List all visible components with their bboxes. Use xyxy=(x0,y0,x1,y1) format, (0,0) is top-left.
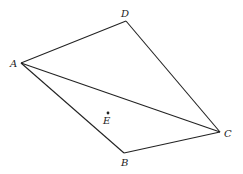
diagram-canvas: ADCBE xyxy=(0,0,243,174)
geometry-diagram: ADCBE xyxy=(0,0,243,174)
label-point-c: C xyxy=(224,128,232,139)
label-point-d: D xyxy=(120,8,129,19)
segment-bc xyxy=(124,132,220,153)
label-point-b: B xyxy=(120,157,128,168)
label-point-e: E xyxy=(102,115,111,126)
segment-ab xyxy=(21,63,124,153)
point-e-dot xyxy=(107,112,110,115)
segments xyxy=(21,21,220,153)
segment-ad xyxy=(21,21,126,63)
label-point-a: A xyxy=(9,58,17,69)
points: ADCBE xyxy=(9,8,232,168)
